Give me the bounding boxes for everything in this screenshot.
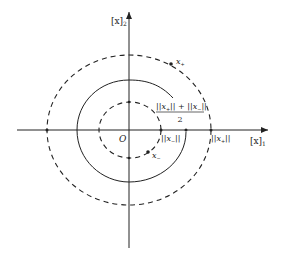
point-x-plus	[169, 62, 173, 66]
x-axis-label: [x]1	[250, 136, 266, 147]
norm-x-plus-label: ||x+||	[211, 134, 231, 144]
avg-denominator: 2	[177, 115, 182, 124]
dot-outer-right	[210, 129, 213, 132]
x-minus-label: x−	[152, 151, 161, 161]
origin-label: O	[119, 134, 127, 144]
x-plus-label: x+	[176, 57, 185, 67]
y-axis-label: [x]2	[111, 16, 127, 27]
diagram-canvas: [x]2 [x]1 O x+ x− ||x−|| ||x+|| ||x+|| +…	[0, 0, 282, 263]
middle-solid-arc	[77, 80, 186, 182]
dot-inner-top	[128, 101, 131, 104]
dot-inner-bottom	[128, 157, 131, 160]
avg-numerator: ||x+|| + ||x−||	[156, 102, 207, 112]
norm-x-minus-label: ||x−||	[161, 134, 181, 144]
dot-inner-right	[160, 129, 163, 132]
point-x-minus	[146, 150, 150, 154]
dot-middle-right	[185, 129, 188, 132]
dot-outer-left	[46, 129, 49, 132]
